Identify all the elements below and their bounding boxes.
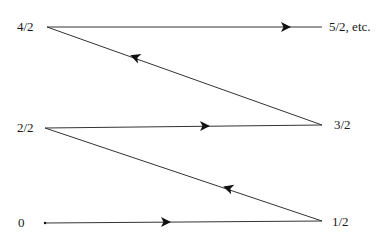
edge-n3-to-n4 [47,27,322,125]
edge-n1-to-n2 [45,128,322,221]
label-zero: 0 [18,216,25,229]
edge-n2-to-n3 [45,125,322,128]
label-two-halves: 2/2 [17,121,34,134]
start-point-icon [44,222,46,224]
label-one-half: 1/2 [332,215,349,228]
diagram-canvas [0,0,387,243]
label-five-halves-etc: 5/2, etc. [329,20,371,33]
label-four-halves: 4/2 [17,20,34,33]
edge-n0-to-n1 [45,221,322,223]
zigzag-diagram: 4/2 5/2, etc. 2/2 3/2 0 1/2 [0,0,387,243]
label-three-halves: 3/2 [334,118,351,131]
